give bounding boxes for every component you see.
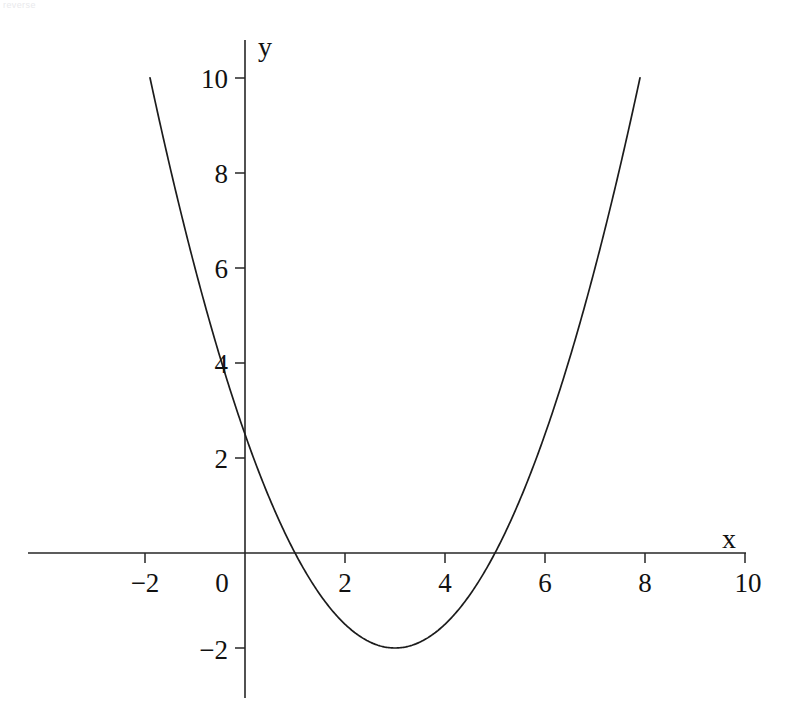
x-tick-label-10: 10 xyxy=(735,568,762,598)
x-tick-label-6: 6 xyxy=(538,568,552,598)
x-tick-label-2: 2 xyxy=(338,568,352,598)
x-tick-label-0: 0 xyxy=(215,568,229,598)
x-tick-label--2: −2 xyxy=(131,568,160,598)
y-tick-label-6: 6 xyxy=(215,254,229,284)
x-tick-label-8: 8 xyxy=(638,568,652,598)
y-axis-title: y xyxy=(258,31,272,62)
y-tick-label-4: 4 xyxy=(215,349,229,379)
x-tick-label-4: 4 xyxy=(438,568,452,598)
scan-artifact-text: reverse xyxy=(3,0,63,13)
x-tick-labels: −2 0 2 4 6 8 10 xyxy=(131,568,762,598)
x-axis-ticks xyxy=(145,553,745,563)
y-axis-ticks xyxy=(235,78,245,648)
parabola-chart: −2 0 2 4 6 8 10 10 8 6 4 2 −2 y x xyxy=(0,0,793,720)
figure-container: reverse xyxy=(0,0,793,720)
y-tick-label--2: −2 xyxy=(199,635,228,665)
y-tick-label-2: 2 xyxy=(215,444,229,474)
x-axis-title: x xyxy=(722,523,736,554)
y-tick-label-8: 8 xyxy=(215,159,229,189)
y-tick-label-10: 10 xyxy=(201,64,228,94)
